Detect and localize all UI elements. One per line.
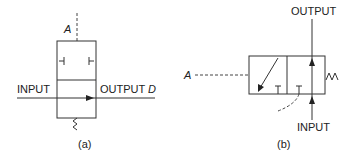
- blocked-port-right-b-icon: [296, 86, 302, 94]
- diagonal-flow-line: [260, 58, 278, 88]
- valve-diagrams: A INPUT OUTPUT D (a) A: [0, 0, 352, 162]
- diagram-b: A OUTPUT INPUT (b): [183, 5, 338, 150]
- blocked-port-right-icon: [89, 57, 94, 65]
- signal-a-label-b: A: [183, 69, 191, 81]
- input-arrow-icon: [309, 96, 315, 104]
- output-label-b: OUTPUT: [291, 5, 337, 17]
- signal-a-label: A: [63, 23, 71, 35]
- diagram-a: A INPUT OUTPUT D (a): [17, 13, 156, 150]
- diagonal-arrow-icon: [258, 84, 264, 92]
- input-label-b: INPUT: [297, 121, 330, 133]
- blocked-port-left-icon: [59, 57, 64, 65]
- caption-b: (b): [277, 138, 290, 150]
- exhaust-dashed-line: [278, 94, 299, 111]
- flow-arrow-icon: [86, 95, 94, 101]
- caption-a: (a): [78, 138, 91, 150]
- output-arrow-icon: [309, 58, 315, 66]
- blocked-port-left-b-icon: [275, 86, 281, 94]
- output-label: OUTPUT D: [100, 83, 156, 95]
- spring-icon-b: [326, 73, 338, 80]
- spring-icon: [73, 118, 77, 130]
- input-label: INPUT: [17, 83, 50, 95]
